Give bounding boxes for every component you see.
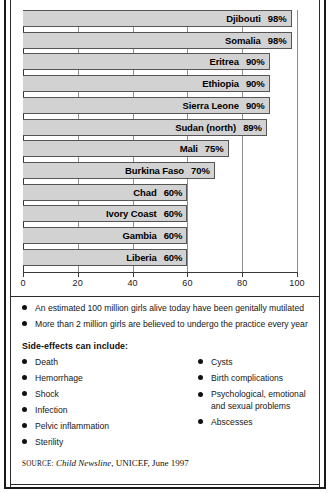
side-effect-item: Psychological, emotionaland sexual probl… bbox=[198, 386, 318, 414]
chart-bar-value-label: 70% bbox=[191, 165, 210, 176]
side-effects-columns: DeathHemorrhageShockInfectionPelvic infl… bbox=[0, 354, 330, 458]
gridline bbox=[242, 10, 243, 273]
side-effect-item-text: Cysts bbox=[211, 357, 232, 367]
chart-bar-value-label: 98% bbox=[268, 35, 287, 46]
source-rest: , UNICEF, June 1997 bbox=[111, 458, 189, 468]
x-axis-tick-label: 80 bbox=[227, 278, 257, 288]
chart-bar-category-label: Ivory Coast bbox=[106, 208, 157, 219]
x-axis-tick-label: 20 bbox=[63, 278, 93, 288]
chart-bar-category-label: Liberia bbox=[126, 252, 156, 263]
x-axis-tick-label: 0 bbox=[8, 278, 38, 288]
chart-bar-category-label: Somalia bbox=[225, 35, 261, 46]
source-line: SOURCE: Child Newsline, UNICEF, June 199… bbox=[22, 458, 189, 468]
chart-bar: Eritrea90% bbox=[23, 53, 270, 70]
chart-bar-label-group: Liberia60% bbox=[126, 252, 186, 263]
bullet-dot-icon bbox=[198, 419, 203, 424]
infographic-page: Djibouti98%Somalia98%Eritrea90%Ethiopia9… bbox=[0, 0, 330, 493]
chart-bar-label-group: Sierra Leone90% bbox=[183, 100, 269, 111]
side-effect-item: Death bbox=[22, 354, 172, 370]
source-publication: Child Newsline bbox=[56, 458, 111, 468]
chart-bar: Somalia98% bbox=[23, 32, 292, 49]
x-axis-tick bbox=[242, 272, 243, 277]
chart-bar-category-label: Sudan (north) bbox=[175, 122, 236, 133]
note-item: An estimated 100 million girls alive tod… bbox=[22, 300, 330, 316]
bullet-dot-icon bbox=[198, 359, 203, 364]
side-effect-item-text: Hemorrhage bbox=[35, 373, 83, 383]
chart-bar-category-label: Gambia bbox=[122, 230, 156, 241]
side-effect-item-text: Shock bbox=[35, 389, 59, 399]
x-axis-tick-label: 40 bbox=[118, 278, 148, 288]
chart-bar-value-label: 90% bbox=[246, 56, 265, 67]
side-effect-item-text-cont: and sexual problems bbox=[211, 400, 318, 412]
side-effect-item: Hemorrhage bbox=[22, 370, 172, 386]
side-effect-item-text: Death bbox=[35, 357, 58, 367]
side-effect-item-text: Sterility bbox=[35, 437, 63, 447]
chart-bar-category-label: Eritrea bbox=[209, 56, 238, 67]
chart-bar-value-label: 98% bbox=[268, 13, 287, 24]
side-effect-item-text: Psychological, emotional bbox=[211, 389, 306, 399]
side-effects-heading: Side-effects can include: bbox=[22, 341, 330, 351]
chart-bar-category-label: Djibouti bbox=[226, 13, 261, 24]
chart-bar-label-group: Sudan (north)89% bbox=[175, 122, 266, 133]
bullet-dot-icon bbox=[22, 321, 27, 326]
side-effect-item-text: Birth complications bbox=[211, 373, 283, 383]
side-effect-item: Sterility bbox=[22, 434, 172, 450]
chart-bar-value-label: 60% bbox=[164, 252, 183, 263]
chart-bar-value-label: 89% bbox=[243, 122, 262, 133]
chart-bar: Burkina Faso70% bbox=[23, 162, 215, 179]
chart-bar-value-label: 60% bbox=[164, 187, 183, 198]
side-effect-item-text: Abscesses bbox=[211, 417, 253, 427]
bullet-dot-icon bbox=[22, 423, 27, 428]
chart-bar: Sudan (north)89% bbox=[23, 119, 267, 136]
chart-bar: Gambia60% bbox=[23, 227, 187, 244]
inner-frame-bottom-rule bbox=[10, 484, 320, 485]
side-effect-item: Cysts bbox=[198, 354, 318, 370]
chart-bar-label-group: Chad60% bbox=[133, 187, 186, 198]
chart-bar: Djibouti98% bbox=[23, 10, 292, 27]
bullet-dot-icon bbox=[22, 407, 27, 412]
chart-bar: Ethiopia90% bbox=[23, 75, 270, 92]
x-axis-tick bbox=[133, 272, 134, 277]
side-effects-right-column: CystsBirth complicationsPsychological, e… bbox=[198, 354, 318, 430]
chart-bar: Sierra Leone90% bbox=[23, 97, 270, 114]
chart-bar: Mali75% bbox=[23, 140, 229, 157]
x-axis-line bbox=[23, 272, 297, 273]
note-item: More than 2 million girls are believed t… bbox=[22, 316, 330, 332]
chart-bar-label-group: Ivory Coast60% bbox=[106, 208, 186, 219]
chart-bar-label-group: Mali75% bbox=[180, 143, 228, 154]
bullet-dot-icon bbox=[22, 375, 27, 380]
chart-bar-category-label: Sierra Leone bbox=[183, 100, 239, 111]
note-list: An estimated 100 million girls alive tod… bbox=[0, 300, 330, 332]
x-axis-tick bbox=[23, 272, 24, 277]
chart-bar-label-group: Gambia60% bbox=[122, 230, 186, 241]
chart-bar-value-label: 75% bbox=[205, 143, 224, 154]
chart-bar-category-label: Ethiopia bbox=[202, 78, 239, 89]
chart-bar-value-label: 90% bbox=[246, 100, 265, 111]
chart-bar-label-group: Eritrea90% bbox=[209, 56, 268, 67]
x-axis-tick bbox=[78, 272, 79, 277]
side-effect-item-text: Infection bbox=[35, 405, 68, 415]
bullet-dot-icon bbox=[198, 392, 203, 397]
chart-bar-category-label: Burkina Faso bbox=[125, 165, 184, 176]
bullet-dot-icon bbox=[22, 359, 27, 364]
chart-bar-value-label: 60% bbox=[164, 208, 183, 219]
side-effect-item: Infection bbox=[22, 402, 172, 418]
bullet-dot-icon bbox=[22, 439, 27, 444]
side-effects-left-column: DeathHemorrhageShockInfectionPelvic infl… bbox=[22, 354, 172, 450]
source-label: SOURCE: bbox=[22, 460, 54, 468]
bullet-dot-icon bbox=[22, 305, 27, 310]
x-axis-tick-label: 60 bbox=[172, 278, 202, 288]
bar-chart: Djibouti98%Somalia98%Eritrea90%Ethiopia9… bbox=[0, 0, 330, 296]
side-effect-item: Birth complications bbox=[198, 370, 318, 386]
side-effect-item-text: Pelvic inflammation bbox=[35, 421, 109, 431]
x-axis-tick bbox=[297, 272, 298, 277]
chart-bar-category-label: Mali bbox=[180, 143, 198, 154]
chart-bar: Chad60% bbox=[23, 184, 187, 201]
chart-bar-value-label: 90% bbox=[246, 78, 265, 89]
chart-bar-label-group: Somalia98% bbox=[225, 35, 290, 46]
x-axis-tick bbox=[187, 272, 188, 277]
chart-bar-label-group: Djibouti98% bbox=[226, 13, 290, 24]
chart-bar: Liberia60% bbox=[23, 249, 187, 266]
notes-section: An estimated 100 million girls alive tod… bbox=[0, 300, 330, 458]
chart-bar-label-group: Ethiopia90% bbox=[202, 78, 268, 89]
